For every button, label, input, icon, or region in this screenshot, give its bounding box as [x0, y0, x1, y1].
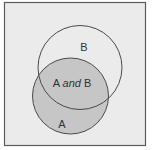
- intersection-label: A and B: [53, 77, 92, 89]
- intersection-label-a: A: [53, 77, 63, 89]
- intersection-label-and: and: [63, 77, 82, 89]
- set-a-label: A: [58, 118, 66, 130]
- venn-svg: B A and B A: [0, 0, 152, 150]
- intersection-label-b: B: [81, 77, 91, 89]
- venn-diagram: B A and B A: [0, 0, 152, 150]
- set-b-label: B: [80, 41, 87, 53]
- set-a-circle: [33, 58, 109, 134]
